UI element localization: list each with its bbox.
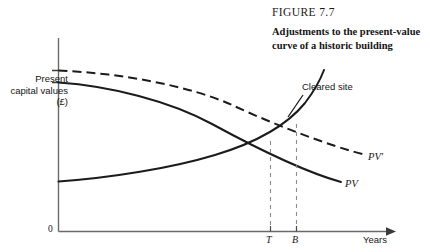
figure-container: FIGURE 7.7 Adjustments to the present-va… — [0, 0, 430, 252]
cleared-site-label: Cleared site — [302, 81, 353, 92]
curve-pv — [59, 83, 342, 183]
y-axis-label: Present capital values (£) — [6, 73, 68, 108]
figure-title: Adjustments to the present-value curve o… — [272, 25, 424, 52]
x-tick-label-T: T — [266, 234, 272, 245]
x-axis-arrowhead — [386, 227, 396, 236]
x-tick-label-B: B — [292, 234, 298, 245]
figure-caption-block: FIGURE 7.7 Adjustments to the present-va… — [272, 6, 424, 52]
figure-number: FIGURE 7.7 — [272, 6, 424, 18]
pv-prime-curve-label: PV' — [368, 151, 383, 162]
x-axis-label: Years — [363, 234, 387, 245]
origin-label: 0 — [48, 224, 53, 234]
pv-curve-label: PV — [345, 178, 358, 189]
